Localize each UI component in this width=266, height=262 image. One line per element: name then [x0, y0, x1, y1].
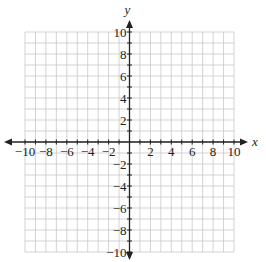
y-tick-label: 10 — [114, 25, 127, 40]
x-axis-right-arrow-icon — [240, 139, 248, 146]
y-tick-label: −2 — [113, 157, 127, 172]
y-tick-label: 4 — [120, 91, 127, 106]
x-axis-left-arrow-icon — [4, 139, 12, 146]
x-tick-label: 8 — [210, 144, 217, 159]
y-axis-up-arrow-icon — [126, 20, 133, 28]
x-tick-label: −10 — [15, 144, 35, 159]
y-tick-label: −10 — [106, 245, 126, 260]
x-tick-label: 6 — [189, 144, 196, 159]
x-tick-label: 4 — [168, 144, 175, 159]
x-tick-label: 10 — [228, 144, 241, 159]
x-axis-label: x — [251, 134, 258, 149]
coordinate-plane: −10−8−6−4−2246810108642−2−4−6−8−10xy — [0, 0, 266, 262]
x-tick-label: −4 — [81, 144, 95, 159]
y-axis-down-arrow-icon — [126, 252, 133, 260]
x-tick-label: 2 — [147, 144, 154, 159]
y-tick-label: 2 — [120, 113, 127, 128]
y-tick-label: 8 — [120, 47, 127, 62]
y-tick-label: −8 — [113, 223, 127, 238]
y-axis-label: y — [123, 2, 131, 17]
y-tick-label: −4 — [113, 179, 127, 194]
x-tick-label: −8 — [39, 144, 53, 159]
x-tick-label: −6 — [60, 144, 74, 159]
y-tick-label: −6 — [113, 201, 127, 216]
y-tick-label: 6 — [120, 69, 127, 84]
